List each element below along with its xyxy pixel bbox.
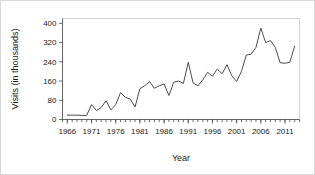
y-axis-title: Visits (in thousands) [10,29,20,110]
y-tick-label: 400 [43,19,57,28]
x-tick-label: 2006 [252,127,270,136]
line-chart-svg: 080160240320400 196619711976198119861991… [1,1,315,175]
x-tick-label: 1981 [131,127,149,136]
x-tick-label: 1966 [58,127,76,136]
y-tick-label: 320 [43,38,57,47]
chart-figure: 080160240320400 196619711976198119861991… [0,0,315,175]
y-tick-label: 160 [43,77,57,86]
x-tick-label: 1971 [83,127,101,136]
data-series-group [67,28,294,115]
x-tick-label: 2011 [276,127,294,136]
x-tick-label: 1986 [155,127,173,136]
x-axis-title: Year [172,153,190,163]
y-tick-label: 80 [48,96,57,105]
x-axis: 1966197119761981198619911996200120062011 [58,120,299,136]
x-tick-label: 1991 [179,127,197,136]
y-tick-label: 0 [52,115,57,124]
x-tick-label: 1976 [107,127,125,136]
plot-frame-group [63,19,300,120]
y-axis: 080160240320400 [43,19,62,125]
x-tick-label: 1996 [204,127,222,136]
plot-area-frame [63,19,300,120]
x-tick-label: 2001 [228,127,246,136]
data-line-visits [67,28,294,115]
y-tick-label: 240 [43,58,57,67]
